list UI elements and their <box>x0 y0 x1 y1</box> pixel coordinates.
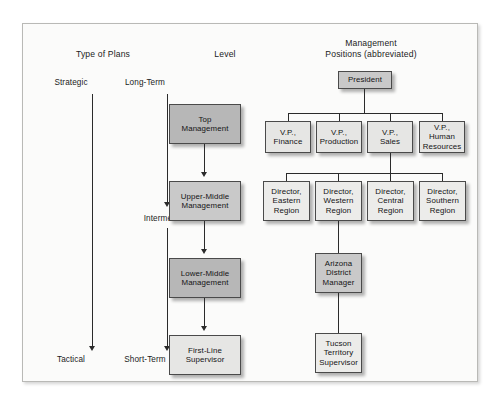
president-drop-line <box>364 89 365 113</box>
org-box-director-eastern[interactable]: Director, Eastern Region <box>263 181 310 221</box>
level-arrowhead-1 <box>201 172 207 177</box>
strategic-axis-line <box>92 94 93 349</box>
org-box-arizona-district-manager[interactable]: Arizona District Manager <box>315 253 362 293</box>
org-box-vp-sales[interactable]: V.P., Sales <box>367 121 413 153</box>
org-box-director-southern[interactable]: Director, Southern Region <box>419 181 466 221</box>
level-box-lower-middle-management[interactable]: Lower-Middle Management <box>169 258 241 298</box>
level-connector-1 <box>204 144 205 175</box>
time-axis-line-upper <box>167 94 168 205</box>
district-manager-drop-line <box>338 293 339 333</box>
org-box-president[interactable]: President <box>338 71 392 89</box>
column-header-level: Level <box>175 49 275 60</box>
strategic-axis-arrowhead <box>89 346 95 351</box>
level-box-first-line-supervisor[interactable]: First-Line Supervisor <box>169 335 241 375</box>
org-box-director-central[interactable]: Director, Central Region <box>367 181 414 221</box>
org-box-tucson-territory-supervisor[interactable]: Tucson Territory Supervisor <box>315 333 362 373</box>
diagram-canvas: Type of Plans Level Management Positions… <box>0 0 498 400</box>
column-header-type-of-plans: Type of Plans <box>51 49 155 60</box>
vp-bus-line <box>288 113 442 114</box>
diagram-frame: Type of Plans Level Management Positions… <box>22 23 478 382</box>
org-box-vp-finance[interactable]: V.P., Finance <box>265 121 311 153</box>
plan-label-long-term: Long-Term <box>99 78 191 87</box>
level-arrowhead-2 <box>201 249 207 254</box>
director-western-drop-line <box>338 221 339 253</box>
org-box-vp-production[interactable]: V.P., Production <box>316 121 362 153</box>
time-axis-line-lower <box>167 228 168 349</box>
level-connector-3 <box>204 298 205 329</box>
org-box-vp-human-resources[interactable]: V.P., Human Resources <box>419 121 465 153</box>
org-box-director-western[interactable]: Director, Western Region <box>315 181 362 221</box>
column-header-management-positions: Management Positions (abbreviated) <box>276 38 466 59</box>
level-arrowhead-3 <box>201 326 207 331</box>
director-bus-line <box>286 173 442 174</box>
vp-sales-drop-line <box>390 153 391 173</box>
level-connector-2 <box>204 221 205 252</box>
level-box-top-management[interactable]: Top Management <box>169 104 241 144</box>
level-box-upper-middle-management[interactable]: Upper-Middle Management <box>169 181 241 221</box>
